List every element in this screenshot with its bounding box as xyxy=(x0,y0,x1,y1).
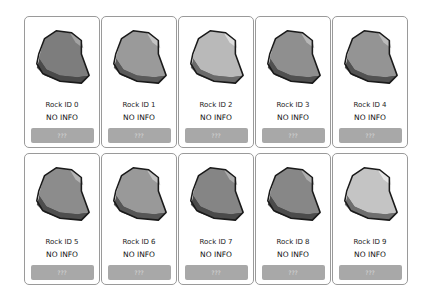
rock-id-label: Rock ID 0 xyxy=(45,101,78,110)
rock-grid: Rock ID 0 NO INFO ??? Rock ID 1 NO INFO … xyxy=(24,16,408,285)
rock-card-4[interactable]: Rock ID 4 NO INFO ??? xyxy=(332,16,408,148)
rock-id-label: Rock ID 7 xyxy=(199,238,232,247)
reveal-button[interactable]: ??? xyxy=(262,128,325,143)
reveal-button[interactable]: ??? xyxy=(108,265,171,280)
reveal-button[interactable]: ??? xyxy=(31,265,94,280)
reveal-button[interactable]: ??? xyxy=(339,265,402,280)
rock-icon xyxy=(108,162,170,224)
rock-info-text: NO INFO xyxy=(200,250,232,260)
rock-card-6[interactable]: Rock ID 6 NO INFO ??? xyxy=(101,153,177,285)
rock-info-text: NO INFO xyxy=(354,113,386,123)
rock-icon xyxy=(31,25,93,87)
rock-info-text: NO INFO xyxy=(46,250,78,260)
rock-id-label: Rock ID 8 xyxy=(276,238,309,247)
rock-icon xyxy=(31,162,93,224)
rock-icon xyxy=(262,25,324,87)
rock-card-9[interactable]: Rock ID 9 NO INFO ??? xyxy=(332,153,408,285)
reveal-button[interactable]: ??? xyxy=(185,265,248,280)
rock-card-2[interactable]: Rock ID 2 NO INFO ??? xyxy=(178,16,254,148)
reveal-button[interactable]: ??? xyxy=(185,128,248,143)
rock-info-text: NO INFO xyxy=(123,113,155,123)
reveal-button[interactable]: ??? xyxy=(108,128,171,143)
rock-id-label: Rock ID 5 xyxy=(45,238,78,247)
rock-icon xyxy=(339,25,401,87)
rock-icon xyxy=(108,25,170,87)
rock-id-label: Rock ID 4 xyxy=(353,101,386,110)
rock-icon xyxy=(185,25,247,87)
rock-card-1[interactable]: Rock ID 1 NO INFO ??? xyxy=(101,16,177,148)
reveal-button[interactable]: ??? xyxy=(339,128,402,143)
rock-info-text: NO INFO xyxy=(277,250,309,260)
reveal-button[interactable]: ??? xyxy=(31,128,94,143)
rock-info-text: NO INFO xyxy=(46,113,78,123)
rock-id-label: Rock ID 1 xyxy=(122,101,155,110)
rock-card-8[interactable]: Rock ID 8 NO INFO ??? xyxy=(255,153,331,285)
rock-card-5[interactable]: Rock ID 5 NO INFO ??? xyxy=(24,153,100,285)
rock-id-label: Rock ID 9 xyxy=(353,238,386,247)
rock-info-text: NO INFO xyxy=(123,250,155,260)
rock-card-0[interactable]: Rock ID 0 NO INFO ??? xyxy=(24,16,100,148)
rock-card-7[interactable]: Rock ID 7 NO INFO ??? xyxy=(178,153,254,285)
rock-id-label: Rock ID 6 xyxy=(122,238,155,247)
rock-icon xyxy=(185,162,247,224)
rock-card-3[interactable]: Rock ID 3 NO INFO ??? xyxy=(255,16,331,148)
rock-info-text: NO INFO xyxy=(277,113,309,123)
rock-info-text: NO INFO xyxy=(354,250,386,260)
rock-icon xyxy=(339,162,401,224)
reveal-button[interactable]: ??? xyxy=(262,265,325,280)
rock-info-text: NO INFO xyxy=(200,113,232,123)
rock-icon xyxy=(262,162,324,224)
rock-id-label: Rock ID 2 xyxy=(199,101,232,110)
rock-id-label: Rock ID 3 xyxy=(276,101,309,110)
